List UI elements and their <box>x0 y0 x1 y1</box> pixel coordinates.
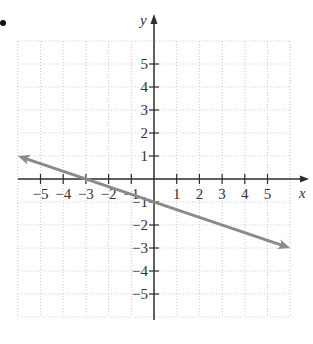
y-tick-label: −4 <box>132 263 148 279</box>
y-tick-label: 1 <box>141 148 149 164</box>
x-tick-label: 5 <box>264 186 272 202</box>
x-tick-label: 3 <box>218 186 226 202</box>
coordinate-plane: −5−4−3−2−112345−5−4−3−2−112345 x y <box>0 0 313 344</box>
y-tick-label: 5 <box>141 56 149 72</box>
y-axis-label: y <box>138 12 147 28</box>
y-tick-label: −2 <box>132 217 148 233</box>
y-tick-label: −3 <box>132 240 148 256</box>
x-tick-label: 2 <box>196 186 204 202</box>
x-axis-arrow-icon <box>300 176 309 183</box>
y-axis-arrow-icon <box>151 14 158 24</box>
y-tick-label: −5 <box>132 286 148 302</box>
x-axis-label: x <box>298 185 306 201</box>
y-tick-label: 3 <box>141 102 149 118</box>
x-tick-label: 1 <box>173 186 181 202</box>
x-tick-label: −3 <box>78 186 94 202</box>
y-tick-label: 4 <box>141 79 149 95</box>
x-tick-label: −4 <box>55 186 71 202</box>
axes <box>18 14 309 320</box>
x-tick-label: 4 <box>241 186 249 202</box>
x-tick-label: −5 <box>33 186 49 202</box>
y-tick-label: 2 <box>141 125 149 141</box>
bullet-marker <box>0 20 6 26</box>
